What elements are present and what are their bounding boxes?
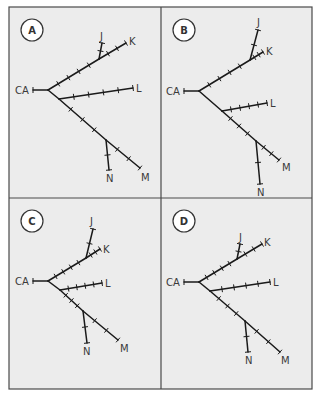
tip-label-m: M xyxy=(281,355,290,366)
tip-label-m: M xyxy=(282,162,291,173)
panel-letter: D xyxy=(180,216,188,227)
tip-label-k: K xyxy=(129,36,136,47)
panel-letter: A xyxy=(28,25,36,36)
panel-letter: C xyxy=(28,216,35,227)
tip-label-m: M xyxy=(141,172,150,183)
tip-label-n: N xyxy=(83,346,90,357)
mutation-tick xyxy=(244,336,250,337)
tip-cap xyxy=(257,184,263,185)
tip-label-k: K xyxy=(264,237,271,248)
tip-label-k: K xyxy=(266,46,273,57)
tip-cap xyxy=(245,352,251,353)
panel-letter: B xyxy=(180,25,188,36)
tip-label-k: K xyxy=(103,244,110,255)
tip-label-j: J xyxy=(89,216,93,227)
tip-label-ca: CA xyxy=(166,86,180,97)
tip-cap xyxy=(106,170,112,171)
panel-label-badge: D xyxy=(173,210,195,232)
tip-label-l: L xyxy=(270,98,276,109)
tip-label-j: J xyxy=(256,17,260,28)
tip-label-n: N xyxy=(245,355,252,366)
tip-label-l: L xyxy=(136,83,142,94)
tip-label-j: J xyxy=(238,232,242,243)
tip-label-n: N xyxy=(257,187,264,198)
tip-label-ca: CA xyxy=(15,85,29,96)
tip-label-l: L xyxy=(105,278,111,289)
mutation-tick xyxy=(105,155,111,156)
panel-label-badge: C xyxy=(21,210,43,232)
panel-label-badge: B xyxy=(173,19,195,41)
panel-label-badge: A xyxy=(21,19,43,41)
tip-label-l: L xyxy=(273,277,279,288)
tip-label-ca: CA xyxy=(15,276,29,287)
tip-label-j: J xyxy=(99,31,103,42)
tip-label-m: M xyxy=(120,343,129,354)
phylogenetic-tree-figure: ACAJKLNMBCAJKLNMCCAJKLNMDCAJKLNM xyxy=(0,0,319,403)
mutation-tick xyxy=(255,162,261,163)
tip-label-n: N xyxy=(106,173,113,184)
tip-label-ca: CA xyxy=(166,277,180,288)
